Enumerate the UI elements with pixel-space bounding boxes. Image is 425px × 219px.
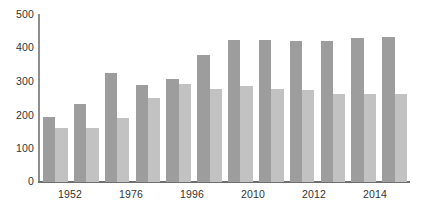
bar-group bbox=[74, 14, 99, 182]
bar-dark[interactable] bbox=[259, 40, 271, 182]
bar-light[interactable] bbox=[271, 89, 283, 182]
bar-dark[interactable] bbox=[136, 85, 148, 182]
bar-light[interactable] bbox=[117, 118, 129, 182]
bar-light[interactable] bbox=[333, 94, 345, 182]
bar-light[interactable] bbox=[210, 89, 222, 182]
x-tick-label-1976: 1976 bbox=[101, 188, 161, 200]
bar-dark[interactable] bbox=[321, 41, 333, 182]
bar-group bbox=[259, 14, 284, 182]
bar-group bbox=[321, 14, 346, 182]
bar-dark[interactable] bbox=[197, 55, 209, 182]
bar-group bbox=[290, 14, 315, 182]
y-tick-label-300: 300 bbox=[4, 76, 34, 86]
bar-dark[interactable] bbox=[228, 40, 240, 182]
x-tick-label-2014: 2014 bbox=[345, 188, 405, 200]
bar-light[interactable] bbox=[395, 94, 407, 182]
bar-light[interactable] bbox=[364, 94, 376, 182]
bar-light[interactable] bbox=[55, 128, 67, 182]
bar-light[interactable] bbox=[302, 90, 314, 182]
x-tick-label-2010: 2010 bbox=[223, 188, 283, 200]
bar-dark[interactable] bbox=[290, 41, 302, 182]
bar-group bbox=[105, 14, 130, 182]
y-tick-label-400: 400 bbox=[4, 42, 34, 52]
bar-group bbox=[166, 14, 191, 182]
bar-dark[interactable] bbox=[351, 38, 363, 182]
bar-dark[interactable] bbox=[105, 73, 117, 182]
x-tick-label-1952: 1952 bbox=[40, 188, 100, 200]
y-tick-label-500: 500 bbox=[4, 9, 34, 19]
bar-light[interactable] bbox=[240, 86, 252, 182]
y-tick-label-100: 100 bbox=[4, 143, 34, 153]
y-tick-label-0: 0 bbox=[4, 176, 34, 186]
y-axis-tick-labels: 500 400 300 200 100 0 bbox=[0, 0, 34, 219]
bar-group bbox=[43, 14, 68, 182]
bar-dark[interactable] bbox=[43, 117, 55, 182]
plot-area bbox=[40, 14, 410, 182]
bar-dark[interactable] bbox=[74, 104, 86, 182]
x-tick-label-1996: 1996 bbox=[162, 188, 222, 200]
bar-light[interactable] bbox=[86, 128, 98, 182]
bar-group bbox=[351, 14, 376, 182]
bar-dark[interactable] bbox=[166, 79, 178, 182]
bar-light[interactable] bbox=[148, 98, 160, 182]
bar-group bbox=[228, 14, 253, 182]
bar-group bbox=[382, 14, 407, 182]
bar-light[interactable] bbox=[179, 84, 191, 182]
y-tick-label-200: 200 bbox=[4, 110, 34, 120]
bar-group bbox=[197, 14, 222, 182]
x-tick-label-2012: 2012 bbox=[284, 188, 344, 200]
bar-dark[interactable] bbox=[382, 37, 394, 182]
bar-group bbox=[136, 14, 161, 182]
bar-chart: 500 400 300 200 100 0 1952 1976 1996 201… bbox=[0, 0, 425, 219]
